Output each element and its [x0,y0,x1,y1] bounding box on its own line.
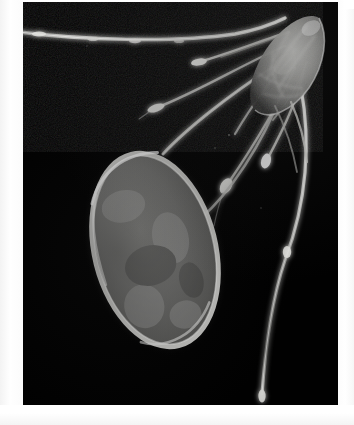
print-corner-top-right [344,0,354,9]
horizontal-antenna [23,18,285,43]
seta-bulb-2 [146,102,165,115]
print-border-left [0,0,23,425]
egg-sac [61,128,249,371]
print-border-bottom [0,405,354,425]
print-border-right [338,0,354,425]
trailing-caudal-filament [258,88,306,402]
cephalothorax [250,16,324,172]
seta-bulb-1 [191,57,208,66]
specimen-illustration [23,2,338,405]
terminal-knob [258,390,265,403]
photographic-plate [23,2,338,405]
photo-frame [0,0,354,425]
